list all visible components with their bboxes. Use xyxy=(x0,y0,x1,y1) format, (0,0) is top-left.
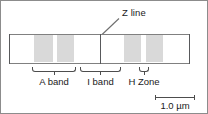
z-line-center xyxy=(100,34,101,64)
z-line-right xyxy=(189,34,190,64)
sarcomere-diagram-figure: Z line A band I band H Zone 1.0 µm xyxy=(0,0,208,114)
h-zone-label: H Zone xyxy=(106,76,182,87)
band-1 xyxy=(34,35,53,62)
i-band-bracket-stem xyxy=(100,72,101,75)
z-line-left xyxy=(9,34,10,64)
band-2 xyxy=(57,35,74,62)
scale-bar-line xyxy=(155,97,195,98)
h-zone-bracket-stem xyxy=(144,72,145,75)
band-3 xyxy=(124,35,141,62)
band-4 xyxy=(146,35,163,62)
a-band-bracket-stem xyxy=(54,72,55,75)
scale-bar-cap-right xyxy=(194,95,195,100)
scale-bar-label: 1.0 µm xyxy=(145,100,205,111)
scale-bar-cap-left xyxy=(155,95,156,100)
